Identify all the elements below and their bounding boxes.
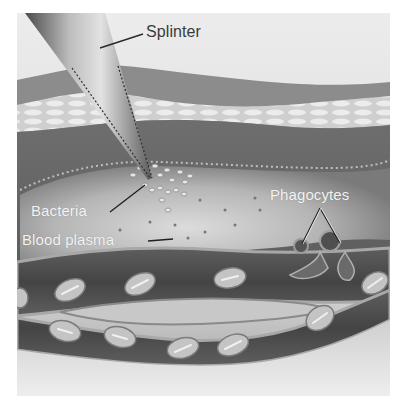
splinter-inflammation-diagram: Splinter Bacteria Blood plasma Phagocyte… xyxy=(0,0,409,413)
phagocytes-label: Phagocytes xyxy=(270,187,349,202)
blood-plasma-label: Blood plasma xyxy=(22,232,114,247)
splinter-label: Splinter xyxy=(146,24,201,39)
bacteria-label: Bacteria xyxy=(31,203,87,218)
